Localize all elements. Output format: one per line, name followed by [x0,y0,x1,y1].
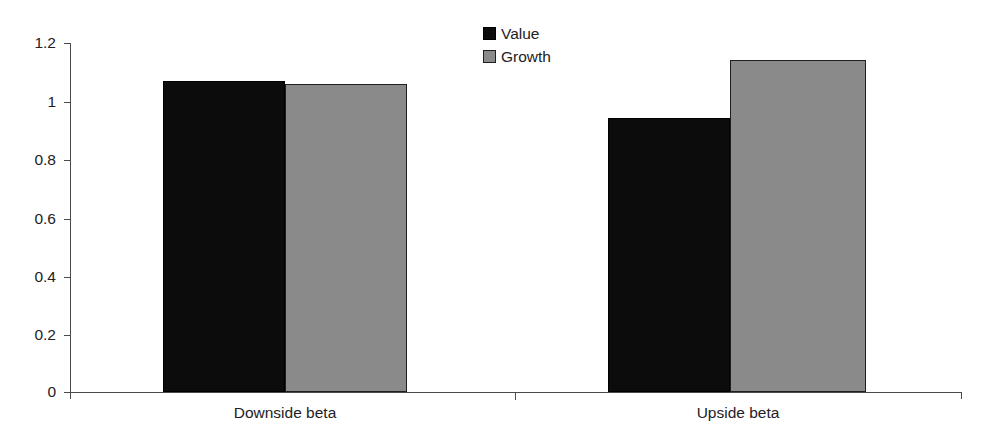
legend-item-growth: Growth [483,49,551,65]
y-axis-label-0.4: 0.4 [8,269,56,285]
bar-chart: 0 0.2 0.4 0.6 0.8 1 1.2 Downside beta Up… [0,0,992,441]
x-axis-category-label-upside-beta: Upside beta [697,404,780,422]
y-axis-label-1: 1 [8,94,56,110]
bar-upside-beta-growth [730,60,866,392]
bar-upside-beta-value [608,118,730,392]
legend-label-value: Value [501,26,540,42]
x-axis-end-tick [961,392,962,399]
bar-downside-beta-growth [285,84,407,392]
legend: Value Growth [483,26,551,64]
legend-label-growth: Growth [501,49,551,65]
x-axis-start-tick [70,392,71,399]
x-axis-line [70,392,962,393]
x-axis-category-label-downside-beta: Downside beta [234,404,337,422]
legend-swatch-icon-value [483,27,496,40]
y-axis-label-0: 0 [8,384,56,400]
x-axis-category-separator-tick [515,392,516,400]
y-axis-label-1.2: 1.2 [8,35,56,51]
legend-swatch-icon-growth [483,50,496,63]
y-axis-label-0.2: 0.2 [8,327,56,343]
y-axis-label-0.8: 0.8 [8,153,56,169]
bar-downside-beta-value [163,81,285,392]
plot-area [70,43,962,392]
y-axis-label-0.6: 0.6 [8,211,56,227]
legend-item-value: Value [483,26,551,42]
